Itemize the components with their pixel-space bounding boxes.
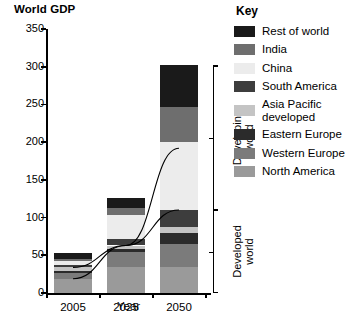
y-tick (41, 66, 46, 68)
legend-item-label: China (262, 62, 292, 75)
bar-segment (160, 267, 198, 293)
y-axis-line (46, 29, 48, 293)
y-tick (41, 28, 46, 30)
bar-segment (160, 244, 198, 267)
bar-segment (54, 259, 92, 261)
legend-swatch-icon (234, 129, 255, 140)
legend-item-label: Rest of world (262, 25, 329, 38)
legend-swatch-icon (234, 63, 255, 74)
bar-segment (54, 265, 92, 267)
bar-segment (160, 210, 198, 227)
bar-segment (107, 249, 145, 251)
legend-swatch-icon (234, 166, 255, 177)
x-axis-title: Year (46, 300, 211, 312)
y-tick (41, 104, 46, 106)
bar-segment (54, 261, 92, 265)
bar-segment (107, 246, 145, 250)
legend-item-label: North America (262, 165, 335, 178)
legend-swatch-icon (234, 26, 255, 37)
legend-item-western-europe[interactable]: Western Europe (234, 146, 359, 160)
bar-segment (107, 239, 145, 245)
developed-world-bracket (213, 210, 219, 293)
plot-area: 200520252050 (46, 26, 211, 296)
x-tick (99, 293, 101, 298)
y-tick (41, 254, 46, 256)
bar-segment (160, 233, 198, 244)
legend-swatch-icon (234, 81, 255, 92)
x-tick (152, 293, 154, 298)
bar-segment (107, 198, 145, 208)
bar-2050 (160, 65, 198, 293)
legend-swatch-icon (234, 148, 255, 159)
bracket-line1: Developed (231, 225, 243, 278)
legend-item-rest-of-world[interactable]: Rest of world (234, 24, 359, 38)
legend-item-label: Eastern Europe (262, 128, 342, 141)
bar-segment (107, 215, 145, 239)
legend-item-china[interactable]: China (234, 61, 359, 75)
legend: Key Rest of worldIndiaChinaSouth America… (234, 4, 359, 183)
x-axis-line (46, 293, 211, 295)
legend-item-north-america[interactable]: North America (234, 165, 359, 179)
legend-item-india[interactable]: India (234, 43, 359, 57)
y-axis-tick-labels: 350300250200150100500 (0, 26, 44, 296)
chart-figure: World GDP Trillion $ (PPP basis) 3503002… (0, 0, 359, 328)
x-tick (205, 293, 207, 298)
bar-segment (160, 107, 198, 142)
bar-segment (54, 253, 92, 259)
legend-swatch-icon (234, 105, 255, 116)
bar-2025 (107, 198, 145, 293)
bar-segment (54, 267, 92, 271)
bar-segment (54, 279, 92, 293)
bar-segment (160, 227, 198, 233)
legend-item-label: India (262, 43, 287, 56)
legend-item-south-america[interactable]: South America (234, 80, 359, 94)
legend-item-asia-pacific-developed[interactable]: Asia Pacific developed (234, 98, 359, 123)
bar-segment (107, 267, 145, 293)
developed-world-bracket-label: Developedworld (232, 210, 255, 293)
bar-segment (54, 273, 92, 278)
bar-segment (54, 271, 92, 273)
bar-segment (160, 142, 198, 210)
bracket-line2: world (243, 238, 255, 264)
legend-title: Key (236, 4, 359, 18)
x-tick (46, 293, 48, 298)
bar-2005 (54, 253, 92, 293)
y-tick (41, 217, 46, 219)
bar-segment (107, 208, 145, 216)
legend-item-label: South America (262, 80, 337, 93)
legend-item-label: Western Europe (262, 147, 345, 160)
bar-segment (160, 65, 198, 106)
y-tick (41, 141, 46, 143)
legend-swatch-icon (234, 44, 255, 55)
developing-world-bracket (213, 65, 219, 210)
legend-item-eastern-europe[interactable]: Eastern Europe (234, 128, 359, 142)
page-title: World GDP (14, 3, 75, 15)
legend-item-label: Asia Pacific developed (262, 98, 358, 123)
bar-segment (107, 252, 145, 267)
y-tick (41, 179, 46, 181)
